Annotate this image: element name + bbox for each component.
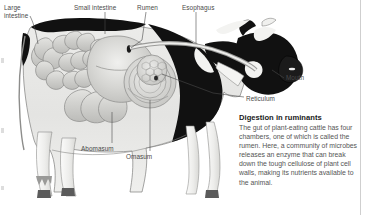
foreleg-front — [206, 122, 220, 196]
label-mouth: Mouth — [286, 74, 304, 82]
page-right-rule — [360, 0, 361, 215]
foreleg-hoof — [205, 190, 219, 198]
figure-page: Large intestine Small intestine Rumen Es… — [0, 0, 367, 215]
label-large-intestine: Large intestine — [4, 4, 28, 19]
hindleg-front-hoof — [61, 188, 75, 196]
cow-horn — [262, 18, 276, 26]
caption-body: The gut of plant-eating cattle has four … — [239, 123, 361, 187]
label-small-intestine: Small intestine — [74, 4, 116, 12]
label-rumen: Rumen — [137, 4, 158, 12]
reticulum-organ — [137, 55, 167, 85]
foreleg-back — [186, 126, 199, 194]
label-abomasum: Abomasum — [81, 145, 114, 153]
label-esophagus: Esophagus — [182, 4, 214, 12]
caption-block: Digestion in ruminants The gut of plant-… — [239, 113, 361, 187]
cow-nostril — [289, 68, 295, 71]
label-reticulum: Reticulum — [246, 95, 275, 103]
hindleg-back — [37, 132, 53, 196]
hindleg-front — [61, 138, 77, 196]
caption-title: Digestion in ruminants — [239, 113, 361, 122]
label-omasum: Omasum — [126, 153, 152, 161]
hindleg-hoof — [37, 190, 51, 198]
